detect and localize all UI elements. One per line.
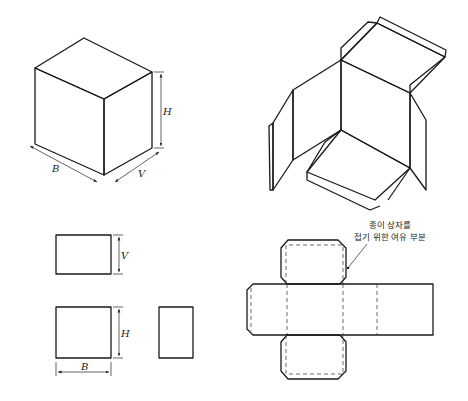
annotation-line-1: 종이 상자를 xyxy=(369,220,412,230)
front-view-height-label: H xyxy=(120,328,130,339)
depth-label: V xyxy=(138,168,147,179)
net-main-strip xyxy=(247,284,433,335)
net-bottom-flap xyxy=(281,335,346,379)
front-view-width-label: B xyxy=(80,361,88,372)
annotation-leader xyxy=(348,244,367,268)
open-box xyxy=(269,17,446,210)
side-view-rect xyxy=(159,307,193,358)
isometric-cube: H B V xyxy=(30,38,172,182)
annotation-line-2: 접기 위한 여유 부분 xyxy=(354,232,426,242)
width-dimension-line xyxy=(30,146,97,182)
box-side-flap-right xyxy=(410,93,426,190)
cube-side-face xyxy=(104,72,152,175)
height-label: H xyxy=(162,106,172,117)
orthographic-views: V H B xyxy=(56,235,193,376)
box-wall-left xyxy=(293,60,341,160)
net-top-flap xyxy=(281,240,346,284)
width-label: B xyxy=(51,163,59,174)
front-view-rect xyxy=(56,307,111,358)
box-side-flap-left xyxy=(273,90,293,190)
top-view-depth-label: V xyxy=(121,250,130,261)
box-diagram: H B V V xyxy=(0,0,468,401)
top-view-rect xyxy=(56,235,111,274)
box-net: 종이 상자를 접기 위한 여유 부분 xyxy=(247,220,433,379)
cube-top-face xyxy=(35,38,152,99)
